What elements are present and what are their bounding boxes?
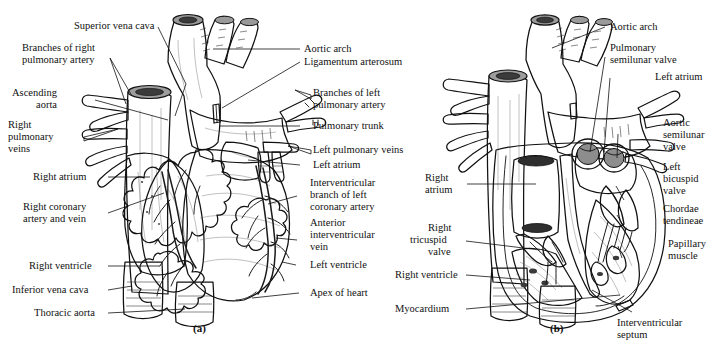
label-branches-left-pulmonary-artery-line1: Branches of left	[313, 87, 380, 99]
right-coronary-vessels	[154, 170, 196, 286]
b-papillary-muscle-shape	[591, 246, 626, 285]
pulmonary-trunk-shape	[190, 110, 292, 163]
leader-thoracic-aorta	[108, 309, 185, 313]
b-right-pulmonary-vessels	[443, 79, 492, 172]
right-pulmonary-artery-branches	[82, 95, 128, 131]
label-myocardium: Myocardium	[395, 303, 449, 315]
label-pulmonary-semilunar-valve-line1: Pulmonary	[610, 42, 656, 54]
panel-tag-b: (b)	[550, 322, 563, 334]
leader-left-ventricle-a	[282, 262, 296, 265]
b-interventricular-septum-shape	[560, 154, 599, 297]
label-left-bicuspid-valve-line2: bicuspid	[663, 173, 699, 185]
label-right-coronary-line2: artery and vein	[23, 213, 86, 225]
label-right-ventricle-a: Right ventricle	[29, 260, 92, 272]
label-aortic-semilunar-valve-line3: valve	[663, 141, 686, 153]
label-chordae-tendineae-line1: Chordae	[663, 203, 699, 215]
label-aortic-semilunar-valve-line1: Aortic	[663, 117, 690, 129]
label-right-pulmonary-veins-line3: veins	[8, 143, 30, 155]
label-right-pulmonary-veins-line1: Right	[8, 119, 31, 131]
label-inferior-vena-cava: Inferior vena cava	[12, 284, 88, 296]
panel-tag-a: (a)	[193, 322, 206, 334]
b-inferior-vena-cava	[490, 268, 527, 321]
right-pulmonary-veins-shape	[82, 128, 131, 187]
label-anterior-interventricular-vein-line2: interventricular	[310, 229, 375, 241]
leader-right-coronary	[108, 193, 164, 213]
label-papillary-muscle-line1: Papillary	[668, 238, 706, 250]
label-interventricular-branch-line1: Interventricular	[310, 177, 375, 189]
label-anterior-interventricular-vein-line1: Anterior	[310, 217, 346, 229]
label-papillary-muscle-line2: muscle	[668, 250, 698, 262]
label-right-ventricle-b: Right ventricle	[395, 269, 458, 281]
label-right-coronary-line1: Right coronary	[23, 201, 86, 213]
label-left-bicuspid-valve-line3: valve	[663, 185, 686, 197]
aortic-branch-vessels	[205, 16, 259, 68]
label-aortic-arch-a: Aortic arch	[304, 43, 352, 55]
label-interventricular-branch-line3: coronary artery	[310, 201, 374, 213]
label-anterior-interventricular-vein-line3: vein	[310, 241, 328, 253]
leader-interventricular-septum	[592, 290, 632, 312]
leader-ligamentum-arterosum	[222, 62, 300, 108]
label-interventricular-septum-line1: Interventricular	[617, 317, 682, 329]
label-right-pulmonary-veins-line2: pulmonary	[8, 131, 54, 143]
leader-right-tricuspid-valve	[466, 241, 540, 250]
epicardial-fat-shape	[123, 150, 287, 313]
leader-pulmonary-semilunar-valve	[590, 57, 605, 152]
label-thoracic-aorta: Thoracic aorta	[34, 307, 95, 319]
label-aortic-semilunar-valve-line2: semilunar	[663, 129, 704, 141]
panel-a-illustration	[82, 15, 325, 327]
label-right-tricuspid-valve-line1: Right	[428, 222, 451, 234]
label-right-atrium-b-line1: Right	[425, 172, 448, 184]
leader-interventricular-branch	[268, 196, 297, 204]
label-pulmonary-trunk: Pulmonary trunk	[313, 120, 384, 132]
leader-branches-left-pulmonary-artery	[295, 90, 311, 99]
label-aortic-arch-b: Aortic arch	[610, 21, 658, 33]
label-branches-right-pulmonary-artery-line2: pulmonary artery	[22, 54, 95, 66]
label-pulmonary-semilunar-valve-line2: semilunar valve	[610, 54, 677, 66]
label-ligamentum-arterosum: Ligamentum arterosum	[304, 56, 402, 68]
label-chordae-tendineae-line2: tendineae	[663, 215, 703, 227]
label-left-bicuspid-valve-line1: Left	[663, 161, 681, 173]
leader-inferior-vena-cava	[108, 286, 132, 290]
leader-left-atrium-b	[604, 78, 610, 152]
label-ascending-aorta-line2: aorta	[36, 99, 57, 111]
thoracic-aorta-shape	[175, 282, 213, 327]
label-branches-right-pulmonary-artery-line1: Branches of right	[22, 42, 95, 54]
label-interventricular-branch-line2: branch of left	[310, 189, 367, 201]
leader-anterior-interventricular-vein	[276, 238, 297, 240]
label-interventricular-septum-line2: septum	[617, 329, 647, 341]
label-superior-vena-cava: Superior vena cava	[74, 20, 154, 32]
label-right-atrium-b-line2: atrium	[425, 184, 452, 196]
b-semilunar-valves	[572, 139, 629, 172]
label-left-atrium-b: Left atrium	[655, 71, 703, 83]
leader-right-ventricle-b	[466, 275, 530, 280]
label-branches-left-pulmonary-artery-line2: pulmonary artery	[313, 99, 386, 111]
leader-myocardium	[466, 295, 620, 309]
label-apex-of-heart: Apex of heart	[310, 287, 368, 299]
label-left-pulmonary-veins: Left pulmonary veins	[313, 144, 403, 156]
b-left-ventricle-chamber	[585, 200, 639, 304]
label-left-ventricle-a: Left ventricle	[310, 259, 367, 271]
label-right-atrium-a: Right atrium	[33, 171, 86, 183]
label-left-atrium-a: Left atrium	[313, 159, 361, 171]
label-right-tricuspid-valve-line2: tricuspid	[410, 234, 447, 246]
label-ascending-aorta-line1: Ascending	[12, 87, 57, 99]
label-right-tricuspid-valve-line3: valve	[428, 246, 451, 258]
figure-root: Superior vena cava Branches of right pul…	[0, 0, 725, 353]
